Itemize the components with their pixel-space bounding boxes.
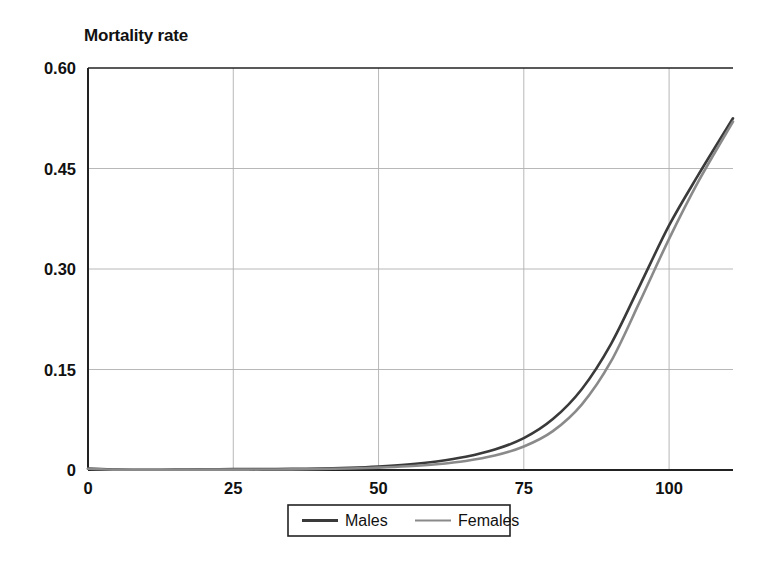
x-tick-label: 100 xyxy=(655,479,683,497)
horizontal-gridlines xyxy=(88,68,733,370)
x-tick-label: 25 xyxy=(224,479,242,497)
series-line-males xyxy=(88,118,733,470)
x-tick-label: 75 xyxy=(515,479,533,497)
mortality-rate-chart: Mortality rate 00.150.300.450.60 0255075… xyxy=(0,0,768,570)
y-axis-tick-labels: 00.150.300.450.60 xyxy=(44,59,76,479)
legend-label-females: Females xyxy=(458,512,519,529)
x-axis-tick-labels: 0255075100 xyxy=(83,479,682,497)
legend-label-males: Males xyxy=(345,512,388,529)
chart-legend: MalesFemales xyxy=(288,505,519,536)
x-tick-label: 50 xyxy=(369,479,387,497)
series-lines xyxy=(88,118,733,470)
plot-canvas: 00.150.300.450.60 0255075100 MalesFemale… xyxy=(0,0,768,570)
x-tick-label: 0 xyxy=(83,479,92,497)
y-tick-label: 0 xyxy=(67,461,76,479)
y-tick-label: 0.30 xyxy=(44,260,76,278)
y-tick-label: 0.45 xyxy=(44,160,76,178)
y-tick-label: 0.60 xyxy=(44,59,76,77)
y-tick-label: 0.15 xyxy=(44,361,76,379)
